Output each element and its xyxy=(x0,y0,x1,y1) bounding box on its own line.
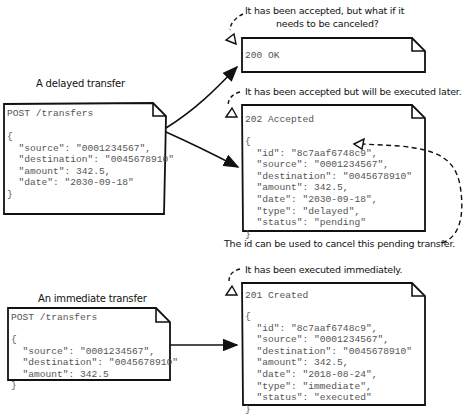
accepted-status-line: 202 Accepted xyxy=(245,114,314,126)
ok-note-caption-line1: It has been accepted, but what if it xyxy=(245,5,404,16)
immediate-transfer-title: An immediate transfer xyxy=(38,293,147,304)
immediate-request-line: POST /transfers xyxy=(11,312,97,324)
created-note-callout xyxy=(226,269,240,295)
delayed-transfer-title: A delayed transfer xyxy=(36,78,125,89)
ok-status-line: 200 OK xyxy=(245,50,280,62)
accepted-note-callout xyxy=(226,92,240,117)
delayed-request-body: { "source": "0001234567", "destination":… xyxy=(7,131,174,201)
accepted-response-body: { "id": "8c7aaf6748c9", "source": "00012… xyxy=(245,136,412,240)
arrow-delayed-to-accepted xyxy=(166,132,238,167)
delayed-request-line: POST /transfers xyxy=(7,108,93,120)
created-status-line: 201 Created xyxy=(245,290,308,302)
accepted-note-caption: It has been accepted but will be execute… xyxy=(245,86,461,97)
arrow-delayed-to-ok xyxy=(166,67,237,128)
immediate-request-body: { "source": "0001234567", "destination":… xyxy=(11,334,178,392)
ok-note-caption-line2: needs to be canceled? xyxy=(276,18,379,29)
created-note-caption: It has been executed immediately. xyxy=(245,264,402,275)
created-response-body: { "id": "8c7aaf6748c9", "source": "00012… xyxy=(245,311,412,415)
ok-note-callout xyxy=(226,14,243,44)
